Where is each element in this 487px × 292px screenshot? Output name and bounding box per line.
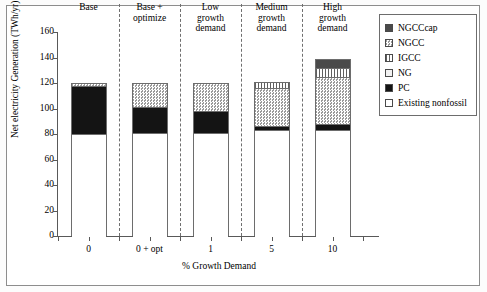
y-tick-mark [53,160,58,161]
igcc-swatch [385,54,393,62]
group-separator [241,4,242,236]
legend-item: IGCC [385,50,472,65]
bar-segment-ngcc [255,89,289,127]
x-tick-label: 1 [208,244,213,254]
y-tick-mark [53,109,58,110]
pc-swatch [385,84,393,92]
group-label-line: Low [178,2,244,13]
x-tick-label: 5 [269,244,274,254]
y-tick-label: 140 [26,53,54,63]
group-label-line: optimize [117,13,183,24]
x-tick-mark [302,236,303,241]
legend-label: NGCCcap [398,23,438,33]
y-tick-mark [53,211,58,212]
legend-item: NG [385,65,472,80]
bar-segment-igcc [316,69,350,78]
group-separator [119,4,120,236]
group-label: Lowgrowthdemand [178,2,244,34]
bar-segment-existing-nonfossil [255,131,289,237]
legend-item: Existing nonfossil [385,95,472,110]
x-tick-mark [119,236,120,241]
bar-segment-pc [194,112,228,134]
bar-segment-existing-nonfossil [72,135,106,237]
legend-label: PC [398,83,410,93]
y-axis-title: Net electricity Generation (TWh/yr) [10,1,20,138]
stacked-bar [71,83,107,236]
y-tick-label: 120 [26,78,54,88]
y-tick-label: 60 [26,155,54,165]
stacked-bar [254,82,290,236]
ngcc-swatch [385,39,393,47]
legend-label: IGCC [398,53,421,63]
group-label-line: High [300,2,366,13]
legend-item: PC [385,80,472,95]
legend-item: NGCCcap [385,20,472,35]
x-tick-mark [241,236,242,241]
x-tick-label: 0 [86,244,91,254]
group-label-line: demand [300,23,366,34]
legend-label: NG [398,68,412,78]
stacked-bar [132,83,168,236]
plot-area: 020406080100120140160 00 + opt1510 BaseB… [58,32,363,236]
y-tick-mark [53,134,58,135]
x-tick-mark [58,236,59,241]
bar-segment-pc [133,108,167,134]
legend-label: Existing nonfossil [398,98,467,108]
y-tick-label: 80 [26,129,54,139]
x-tick-label: 0 + opt [136,244,163,254]
stacked-bar [315,59,351,236]
group-separator [180,4,181,236]
group-label-line: growth [300,13,366,24]
ngcccap-swatch [385,24,393,32]
legend-label: NGCC [398,38,424,48]
y-tick-label: 0 [26,231,54,241]
bar-segment-ngcc [194,84,228,112]
y-tick-label: 160 [26,27,54,37]
legend-item: NGCC [385,35,472,50]
legend: NGCCcapNGCCIGCCNGPCExisting nonfossil [379,14,477,116]
bar-segment-existing-nonfossil [133,134,167,237]
group-label-line: growth [178,13,244,24]
y-tick-label: 100 [26,104,54,114]
y-tick-label: 40 [26,180,54,190]
figure: Net electricity Generation (TWh/yr) % Gr… [0,0,487,292]
bar-segment-ngcccap [316,60,350,69]
group-label-line: Medium [239,2,305,13]
group-separator [302,4,303,236]
y-tick-mark [53,83,58,84]
bar-segment-pc [72,87,106,135]
bar-segment-existing-nonfossil [194,134,228,237]
group-label: Base [56,2,122,13]
group-label: Highgrowthdemand [300,2,366,34]
existing-nonfossil-swatch [385,99,393,107]
bar-segment-existing-nonfossil [316,131,350,237]
y-tick-mark [53,32,58,33]
x-tick-mark [363,236,364,241]
stacked-bar [193,83,229,236]
bar-segment-ngcc [316,78,350,125]
y-tick-label: 20 [26,206,54,216]
x-axis-title: % Growth Demand [58,261,380,271]
y-tick-mark [53,185,58,186]
group-label-line: demand [178,23,244,34]
group-label-line: Base [56,2,122,13]
group-label-line: growth [239,13,305,24]
group-label-line: Base + [117,2,183,13]
bar-segment-ngcc [133,84,167,108]
group-label: Mediumgrowthdemand [239,2,305,34]
group-label: Base +optimize [117,2,183,23]
x-tick-mark [180,236,181,241]
x-tick-label: 10 [328,244,338,254]
y-tick-mark [53,58,58,59]
ng-swatch [385,69,393,77]
group-label-line: demand [239,23,305,34]
